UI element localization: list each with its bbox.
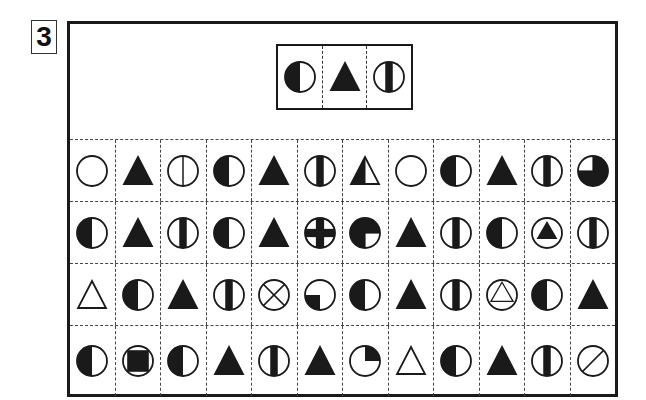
grid-cell[interactable] xyxy=(388,140,434,201)
triangle-filled-icon xyxy=(303,344,337,378)
symbol-grid xyxy=(70,139,615,394)
grid-cell[interactable] xyxy=(115,140,161,201)
circle-center-stripe-icon xyxy=(372,60,406,94)
grid-cell[interactable] xyxy=(342,326,388,396)
triangle-filled-icon xyxy=(576,278,610,312)
circle-left-half-filled-icon xyxy=(283,60,317,94)
circle-center-stripe-icon xyxy=(530,344,564,378)
grid-cell[interactable] xyxy=(206,264,252,325)
grid-row xyxy=(70,140,615,202)
circle-left-half-filled-icon xyxy=(485,216,519,250)
question-number: 3 xyxy=(31,20,57,54)
triangle-filled-icon xyxy=(257,216,291,250)
circle-left-half-filled-icon xyxy=(530,278,564,312)
circle-slash-icon xyxy=(576,344,610,378)
grid-cell[interactable] xyxy=(297,264,343,325)
grid-cell[interactable] xyxy=(570,202,616,263)
grid-cell[interactable] xyxy=(70,326,115,396)
grid-row xyxy=(70,326,615,396)
triangle-empty-icon xyxy=(394,344,428,378)
circle-left-half-filled-icon xyxy=(439,154,473,188)
triangle-filled-icon xyxy=(121,154,155,188)
grid-cell[interactable] xyxy=(524,326,570,396)
grid-cell[interactable] xyxy=(115,264,161,325)
triangle-left-half-filled-icon xyxy=(348,154,382,188)
circle-center-stripe-icon xyxy=(576,216,610,250)
circle-left-half-filled-icon xyxy=(212,216,246,250)
grid-cell[interactable] xyxy=(570,264,616,325)
grid-cell[interactable] xyxy=(70,140,115,201)
grid-cell[interactable] xyxy=(160,202,206,263)
grid-cell[interactable] xyxy=(251,202,297,263)
grid-cell[interactable] xyxy=(251,140,297,201)
triangle-filled-icon xyxy=(485,154,519,188)
grid-cell[interactable] xyxy=(570,140,616,201)
circle-empty-icon xyxy=(394,154,428,188)
circle-center-stripe-icon xyxy=(439,278,473,312)
target-sequence-box xyxy=(276,44,413,110)
grid-cell[interactable] xyxy=(524,202,570,263)
circle-cross-filled-icon xyxy=(303,216,337,250)
circle-center-stripe-icon xyxy=(439,216,473,250)
grid-cell[interactable] xyxy=(160,326,206,396)
grid-cell[interactable] xyxy=(342,264,388,325)
grid-cell[interactable] xyxy=(115,326,161,396)
grid-cell[interactable] xyxy=(251,264,297,325)
grid-cell[interactable] xyxy=(388,202,434,263)
circle-quarter-bl-filled-icon xyxy=(303,278,337,312)
circle-left-half-filled-icon xyxy=(348,278,382,312)
grid-cell[interactable] xyxy=(524,140,570,201)
grid-cell[interactable] xyxy=(160,140,206,201)
grid-cell[interactable] xyxy=(524,264,570,325)
grid-cell[interactable] xyxy=(433,326,479,396)
grid-cell[interactable] xyxy=(479,326,525,396)
grid-cell[interactable] xyxy=(251,326,297,396)
circle-quarter-tr-filled-icon xyxy=(348,344,382,378)
grid-cell[interactable] xyxy=(388,264,434,325)
grid-cell[interactable] xyxy=(433,202,479,263)
grid-cell[interactable] xyxy=(433,264,479,325)
circle-center-stripe-icon xyxy=(530,154,564,188)
triangle-empty-icon xyxy=(75,278,109,312)
target-cell xyxy=(322,46,367,108)
grid-cell[interactable] xyxy=(570,326,616,396)
circle-left-half-filled-icon xyxy=(75,216,109,250)
circle-three-quarter-filled-icon xyxy=(576,154,610,188)
circle-center-stripe-icon xyxy=(212,278,246,312)
grid-cell[interactable] xyxy=(297,326,343,396)
grid-cell[interactable] xyxy=(115,202,161,263)
circle-left-half-filled-icon xyxy=(75,344,109,378)
grid-cell[interactable] xyxy=(479,264,525,325)
grid-cell[interactable] xyxy=(206,202,252,263)
grid-cell[interactable] xyxy=(70,202,115,263)
circle-vertical-line-icon xyxy=(166,154,200,188)
grid-cell[interactable] xyxy=(297,140,343,201)
circle-left-half-filled-icon xyxy=(166,344,200,378)
grid-cell[interactable] xyxy=(433,140,479,201)
grid-cell[interactable] xyxy=(206,140,252,201)
grid-row xyxy=(70,264,615,326)
grid-cell[interactable] xyxy=(70,264,115,325)
grid-cell[interactable] xyxy=(342,202,388,263)
triangle-filled-icon xyxy=(212,344,246,378)
grid-cell[interactable] xyxy=(479,140,525,201)
grid-cell[interactable] xyxy=(160,264,206,325)
circle-center-stripe-icon xyxy=(303,154,337,188)
triangle-filled-icon xyxy=(394,278,428,312)
triangle-filled-icon xyxy=(485,344,519,378)
circle-with-filled-triangle-icon xyxy=(530,216,564,250)
grid-cell[interactable] xyxy=(206,326,252,396)
grid-cell[interactable] xyxy=(297,202,343,263)
grid-cell[interactable] xyxy=(342,140,388,201)
target-cell xyxy=(278,46,322,108)
grid-cell[interactable] xyxy=(479,202,525,263)
circle-left-half-filled-icon xyxy=(212,154,246,188)
triangle-filled-icon xyxy=(394,216,428,250)
grid-cell[interactable] xyxy=(388,326,434,396)
circle-with-filled-square-icon xyxy=(121,344,155,378)
circle-left-half-filled-icon xyxy=(121,278,155,312)
circle-empty-icon xyxy=(75,154,109,188)
triangle-filled-icon xyxy=(166,278,200,312)
grid-row xyxy=(70,202,615,264)
circle-center-stripe-icon xyxy=(257,344,291,378)
